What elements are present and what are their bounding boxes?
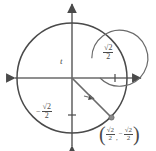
y-tick-denominator: 2 xyxy=(42,112,52,120)
point-x-denominator: 2 xyxy=(106,135,115,142)
y-tick-label: − √2 2 xyxy=(36,103,52,120)
x-tick-fraction: √2 2 xyxy=(103,44,113,61)
x-tick-denominator: 2 xyxy=(103,53,113,61)
pair-comma: , xyxy=(115,135,119,142)
terminal-ray xyxy=(72,78,111,117)
y-tick-fraction: √2 2 xyxy=(42,103,52,120)
point-x-fraction: √2 2 xyxy=(106,127,115,142)
unit-circle-figure: t √2 2 − √2 2 ( √2 2 ,− √2 2 ) xyxy=(0,0,156,151)
point-marker-icon xyxy=(109,115,114,120)
open-paren: ( xyxy=(99,125,106,143)
point-y-denominator: 2 xyxy=(124,135,133,142)
angle-label: t xyxy=(60,57,63,66)
close-paren: ) xyxy=(133,125,140,143)
x-tick-label: √2 2 xyxy=(103,44,113,61)
point-y-fraction: √2 2 xyxy=(124,127,133,142)
coordinate-pair-label: ( √2 2 ,− √2 2 ) xyxy=(99,125,140,143)
